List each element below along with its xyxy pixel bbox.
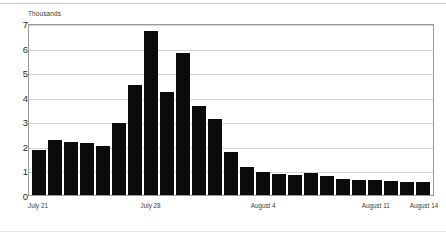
bar (240, 167, 254, 195)
y-axis-tick-label: 3 (6, 117, 28, 128)
bar (64, 142, 78, 195)
bar (144, 31, 158, 195)
y-axis-tick-label: 7 (6, 19, 28, 30)
bar (288, 175, 302, 195)
bar (304, 173, 318, 195)
y-axis-tick-label: 6 (6, 43, 28, 54)
bar (320, 176, 334, 195)
x-axis-tick-label: August 4 (251, 202, 276, 209)
top-divider (0, 3, 446, 4)
bar (176, 53, 190, 195)
bar (384, 181, 398, 195)
bar (368, 180, 382, 195)
bar (400, 182, 414, 195)
bar (336, 179, 350, 195)
y-axis-unit-label: Thousands (28, 10, 61, 17)
y-axis-tick-label: 1 (6, 166, 28, 177)
bottom-divider (0, 231, 446, 232)
y-axis-tick-label: 4 (6, 92, 28, 103)
bar (112, 123, 126, 195)
bar (128, 85, 142, 195)
x-axis-tick-label: August 11 (362, 202, 390, 209)
y-axis-tick-label: 5 (6, 68, 28, 79)
bar-series (29, 25, 433, 195)
bar (48, 140, 62, 195)
bar (192, 106, 206, 195)
bar (256, 172, 270, 195)
bar (96, 146, 110, 195)
bar (224, 152, 238, 195)
bar (416, 182, 430, 195)
bar (352, 180, 366, 195)
bar (208, 119, 222, 195)
x-axis-tick-label: July 21 (28, 202, 48, 209)
bar (80, 143, 94, 195)
bar (32, 150, 46, 195)
x-axis-tick-label: August 14 (410, 202, 438, 209)
bar (160, 92, 174, 195)
y-axis-tick-label: 2 (6, 141, 28, 152)
bar-chart: Thousands 76543210 July 21July 28August … (0, 0, 446, 233)
x-axis-tick-label: July 28 (141, 202, 161, 209)
plot-area (28, 24, 434, 196)
y-axis-tick-label: 0 (6, 191, 28, 202)
bar (272, 174, 286, 195)
